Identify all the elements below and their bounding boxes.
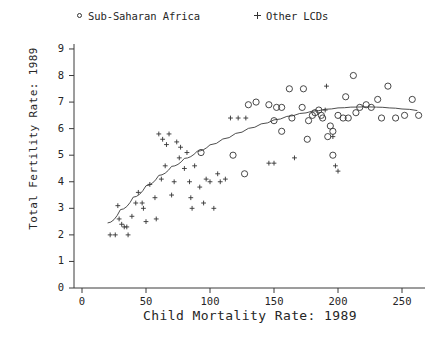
data-point-open-circle (299, 104, 305, 110)
data-point-open-circle (325, 134, 331, 140)
data-point-plus (336, 169, 341, 174)
data-point-plus (266, 161, 271, 166)
data-point-open-circle (330, 128, 336, 134)
data-point-plus (113, 232, 118, 237)
scatter-plot-figure: Sub-Saharan Africa Other LCDs Total Fert… (0, 0, 442, 338)
data-point-open-circle (241, 171, 247, 177)
data-point-plus (204, 177, 209, 182)
data-point-open-circle (393, 115, 399, 121)
data-point-plus (272, 161, 277, 166)
data-point-plus (182, 166, 187, 171)
plot-area (0, 0, 442, 338)
data-point-open-circle (305, 118, 311, 124)
y-axis-tick-label: 6 (48, 122, 64, 134)
data-point-open-circle (253, 99, 259, 105)
data-point-plus (330, 134, 335, 139)
data-point-open-circle (286, 86, 292, 92)
x-axis-tick-label: 200 (329, 295, 348, 307)
data-point-plus (159, 177, 164, 182)
y-axis-tick-label: 4 (48, 175, 64, 187)
data-point-plus (130, 214, 135, 219)
data-point-open-circle (409, 96, 415, 102)
y-axis-tick-label: 2 (48, 228, 64, 240)
y-axis-tick-label: 7 (48, 95, 64, 107)
data-point-plus (126, 232, 131, 237)
data-point-plus (164, 142, 169, 147)
y-axis-tick-label: 3 (48, 201, 64, 213)
data-point-plus (177, 155, 182, 160)
data-point-open-circle (385, 83, 391, 89)
data-point-plus (169, 193, 174, 198)
data-point-plus (115, 203, 120, 208)
y-axis-tick-label: 0 (48, 281, 64, 293)
data-point-open-circle (416, 112, 422, 118)
series-sub-saharan-africa (198, 72, 422, 176)
data-point-plus (236, 116, 241, 121)
data-point-plus (119, 222, 124, 227)
data-point-open-circle (401, 112, 407, 118)
data-point-plus (174, 140, 179, 145)
data-point-plus (140, 201, 145, 206)
x-axis-tick-label: 100 (201, 295, 220, 307)
data-point-open-circle (304, 136, 310, 142)
data-point-plus (333, 163, 338, 168)
data-point-plus (223, 177, 228, 182)
data-point-plus (215, 171, 220, 176)
data-point-plus (243, 116, 248, 121)
data-point-plus (211, 206, 216, 211)
y-axis-tick-label: 9 (48, 42, 64, 54)
data-point-open-circle (330, 152, 336, 158)
data-point-plus (163, 163, 168, 168)
data-point-open-circle (266, 102, 272, 108)
data-point-open-circle (230, 152, 236, 158)
x-axis-tick-label: 250 (393, 295, 412, 307)
data-point-open-circle (378, 115, 384, 121)
data-point-plus (154, 217, 159, 222)
data-point-plus (190, 206, 195, 211)
data-point-plus (133, 201, 138, 206)
data-point-plus (172, 179, 177, 184)
data-point-plus (324, 84, 329, 89)
data-point-plus (160, 137, 165, 142)
data-point-plus (124, 225, 129, 230)
data-point-plus (188, 195, 193, 200)
data-point-open-circle (245, 102, 251, 108)
data-point-open-circle (343, 94, 349, 100)
x-axis-tick-label: 50 (140, 295, 153, 307)
data-point-plus (156, 132, 161, 137)
x-axis-tick-label: 0 (79, 295, 85, 307)
data-point-plus (292, 155, 297, 160)
data-point-plus (228, 116, 233, 121)
data-point-plus (167, 132, 172, 137)
data-point-open-circle (350, 72, 356, 78)
x-axis-tick-label: 150 (265, 295, 284, 307)
data-point-plus (208, 179, 213, 184)
data-point-plus (192, 163, 197, 168)
data-point-plus (201, 201, 206, 206)
y-axis-tick-label: 1 (48, 254, 64, 266)
trend-line (108, 107, 418, 223)
data-point-plus (178, 145, 183, 150)
data-point-open-circle (353, 110, 359, 116)
y-axis-tick-label: 5 (48, 148, 64, 160)
data-point-plus (323, 108, 328, 113)
data-point-plus (108, 232, 113, 237)
data-point-plus (147, 182, 152, 187)
data-point-plus (197, 185, 202, 190)
data-point-plus (218, 179, 223, 184)
data-point-plus (141, 206, 146, 211)
data-point-open-circle (300, 86, 306, 92)
data-point-open-circle (279, 128, 285, 134)
data-point-plus (117, 217, 122, 222)
data-point-open-circle (375, 96, 381, 102)
data-point-plus (185, 150, 190, 155)
y-axis-tick-label: 8 (48, 69, 64, 81)
data-point-plus (187, 179, 192, 184)
data-point-plus (144, 219, 149, 224)
data-point-plus (153, 195, 158, 200)
